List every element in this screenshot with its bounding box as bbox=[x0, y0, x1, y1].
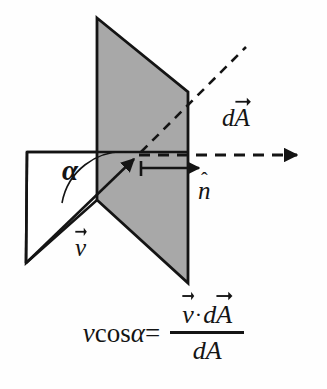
figure-canvas: α v d A n ˆ bbox=[0, 0, 327, 389]
area-symbol-d: d bbox=[222, 104, 235, 131]
numerator-d-symbol: d bbox=[203, 300, 216, 330]
numerator-area-vector: A bbox=[216, 300, 232, 330]
dot-product-operator: · bbox=[194, 302, 203, 328]
velocity-vector-label: v bbox=[75, 235, 86, 260]
formula-left-hand-side: vcosα bbox=[83, 318, 145, 349]
area-symbol-A: A bbox=[235, 105, 250, 130]
velocity-vector-glyph: v bbox=[75, 235, 86, 260]
formula-equals-sign: = bbox=[145, 318, 160, 349]
formula-lhs-v: v bbox=[83, 318, 95, 348]
numerator-velocity-vector: v bbox=[182, 300, 194, 330]
area-vector-glyph: A bbox=[235, 105, 250, 130]
unit-normal-label: n ˆ bbox=[198, 178, 211, 203]
formula-numerator: v ·d A bbox=[178, 300, 236, 331]
formula-lhs-cos: cos bbox=[95, 318, 131, 348]
formula-lhs-alpha: α bbox=[131, 318, 145, 348]
angle-label-alpha: α bbox=[62, 156, 78, 185]
numerator-v-symbol: v bbox=[182, 300, 194, 330]
numerator-A-symbol: A bbox=[216, 300, 232, 330]
normal-symbol: n bbox=[198, 178, 211, 203]
unit-normal-glyph: n ˆ bbox=[198, 178, 211, 203]
velocity-symbol: v bbox=[75, 235, 86, 260]
flux-formula: vcosα = v ·d A bbox=[0, 300, 327, 366]
formula-fraction: v ·d A bbox=[170, 300, 244, 366]
area-vector-label: d A bbox=[222, 105, 250, 130]
formula-denominator: dA bbox=[189, 334, 226, 366]
horizontal-plane-left-edge bbox=[26, 152, 27, 263]
